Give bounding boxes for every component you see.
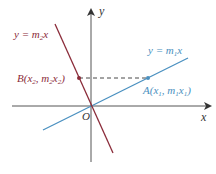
label-y-m1x: y = m1x — [147, 44, 182, 58]
label-point-b: B(x2, m2x2) — [17, 72, 65, 86]
diagram-canvas: y x O y = m2x y = m1x B(x2, m2x2) A(x1, … — [0, 0, 216, 174]
label-point-a: A(x1, m1x1) — [142, 84, 191, 98]
origin-label: O — [82, 110, 90, 122]
point-a — [146, 76, 150, 80]
y-axis-label: y — [98, 4, 105, 18]
point-b — [77, 76, 81, 80]
label-y-m2x: y = m2x — [13, 28, 48, 42]
x-axis-label: x — [200, 110, 207, 124]
line-y-m2x — [55, 24, 113, 153]
